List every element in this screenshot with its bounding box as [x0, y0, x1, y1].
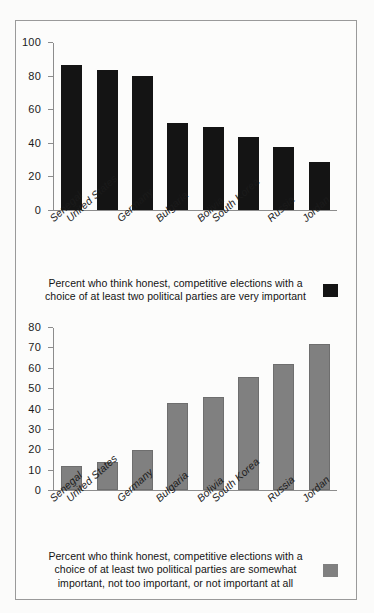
bar-slot — [160, 328, 195, 490]
y-tick-label: 30 — [28, 423, 41, 435]
y-tick: 50 — [48, 388, 53, 389]
bar-slot — [54, 328, 89, 490]
y-tick-label: 0 — [35, 204, 41, 216]
y-tick-label: 80 — [28, 321, 41, 333]
category-slot: Germany — [125, 213, 161, 271]
bar-slot — [125, 328, 160, 490]
category-slot: Russia — [267, 213, 303, 271]
y-tick: 100 — [48, 42, 53, 43]
legend-top: Percent who think honest, competitive el… — [38, 273, 338, 307]
bar-russia — [273, 364, 294, 490]
y-tick-label: 0 — [35, 484, 41, 496]
y-tick-label: 50 — [28, 382, 41, 394]
y-tick-label: 60 — [28, 103, 41, 115]
y-tick: 70 — [48, 347, 53, 348]
y-tick: 20 — [48, 449, 53, 450]
bar-slot — [266, 43, 301, 210]
category-slot: South Korea — [232, 493, 268, 551]
x-axis-line-bottom — [53, 490, 337, 491]
y-tick-label: 40 — [28, 137, 41, 149]
legend-label-top: Percent who think honest, competitive el… — [38, 277, 313, 304]
bar-slot — [196, 328, 231, 490]
y-tick: 20 — [48, 176, 53, 177]
x-axis-category-labels-bottom: SenegalUnited StatesGermanyBulgariaBoliv… — [54, 493, 338, 551]
x-axis-category-labels-top: SenegalUnited StatesGermanyBulgariaBoliv… — [54, 213, 338, 271]
category-slot: Russia — [267, 493, 303, 551]
legend-swatch-dark-icon — [323, 284, 338, 297]
legend-label-bottom: Percent who think honest, competitive el… — [38, 550, 313, 591]
figure-page: 100806040200 SenegalUnited StatesGermany… — [0, 0, 374, 613]
y-tick-label: 60 — [28, 362, 41, 374]
y-tick-label: 40 — [28, 403, 41, 415]
bar-slot — [266, 328, 301, 490]
bar-slot — [302, 328, 337, 490]
bar-slot — [125, 43, 160, 210]
bar-slot — [196, 43, 231, 210]
category-slot: Bolivia — [196, 493, 232, 551]
category-slot: South Korea — [232, 213, 268, 271]
bar-jordan — [309, 344, 330, 490]
y-tick-label: 80 — [28, 70, 41, 82]
y-tick: 60 — [48, 368, 53, 369]
y-tick-label: 10 — [28, 464, 41, 476]
y-tick: 30 — [48, 429, 53, 430]
y-tick-label: 70 — [28, 341, 41, 353]
category-slot: Jordan — [303, 213, 339, 271]
bar-senegal — [61, 65, 82, 210]
bar-slot — [160, 43, 195, 210]
y-tick: 80 — [48, 76, 53, 77]
y-tick: 40 — [48, 143, 53, 144]
figure-frame: 100806040200 SenegalUnited StatesGermany… — [15, 20, 357, 600]
y-tick-label: 20 — [28, 443, 41, 455]
y-tick: 80 — [48, 327, 53, 328]
category-slot: Germany — [125, 493, 161, 551]
category-slot: Bolivia — [196, 213, 232, 271]
y-tick-label: 20 — [28, 170, 41, 182]
category-slot: Bulgaria — [161, 493, 197, 551]
category-slot: Bulgaria — [161, 213, 197, 271]
x-axis-line-top — [53, 210, 337, 211]
bar-slot — [54, 43, 89, 210]
legend-swatch-grey-icon — [323, 564, 338, 577]
category-slot: Jordan — [303, 493, 339, 551]
y-tick: 40 — [48, 409, 53, 410]
legend-bottom: Percent who think honest, competitive el… — [38, 548, 338, 592]
y-tick-label: 100 — [22, 36, 41, 48]
bar-slot — [302, 43, 337, 210]
y-tick: 60 — [48, 109, 53, 110]
y-tick: 10 — [48, 470, 53, 471]
